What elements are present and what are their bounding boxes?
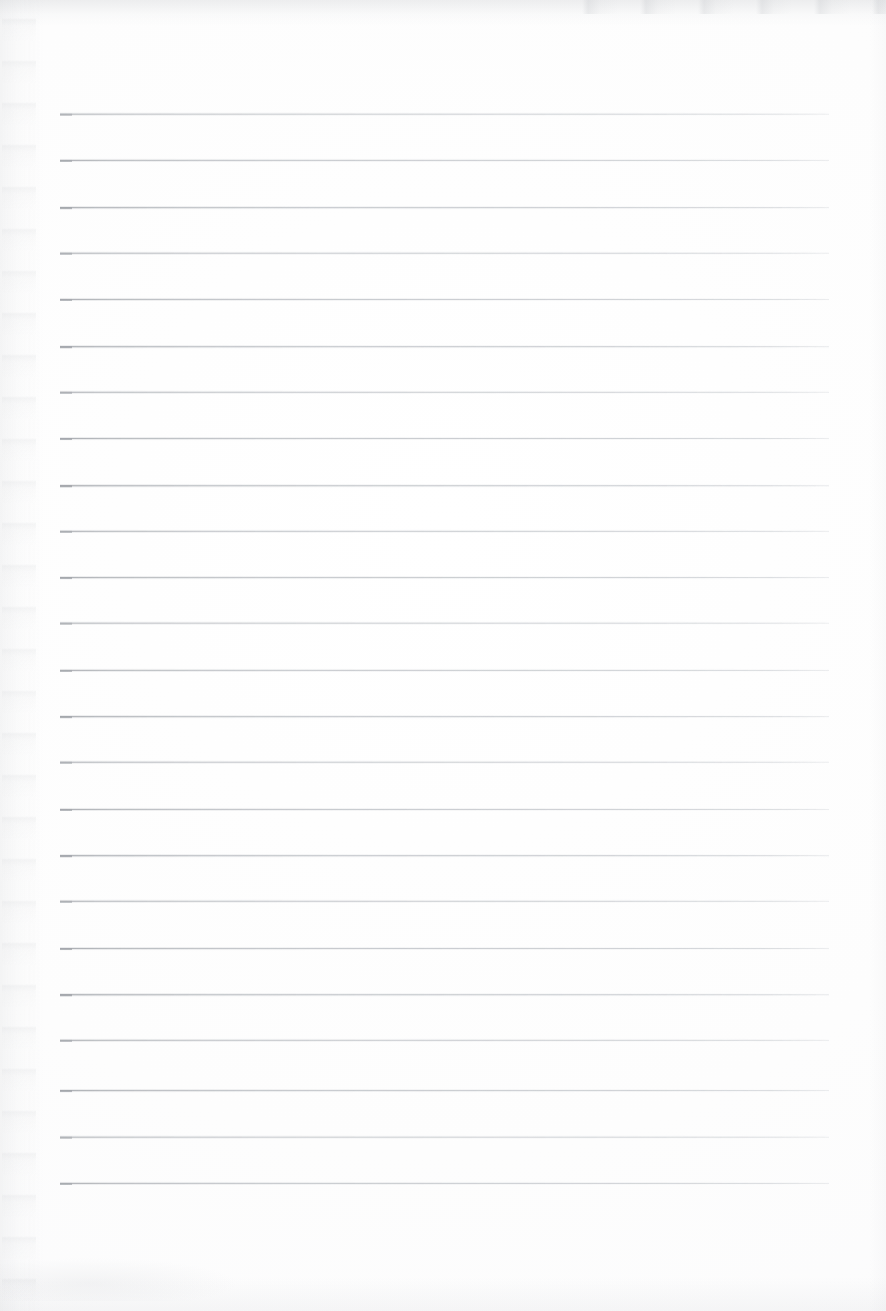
paper-background bbox=[0, 0, 886, 1311]
scanned-page bbox=[0, 0, 886, 1311]
